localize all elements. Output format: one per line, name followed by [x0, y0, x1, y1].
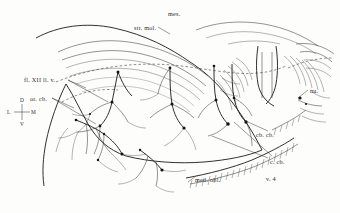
- label-orcb: or. cb.: [30, 96, 47, 102]
- right-edge-detail: [298, 92, 330, 122]
- compass-ventral-label: V: [20, 121, 24, 127]
- label-c-cb: c. cb.: [270, 159, 285, 165]
- label-mes: mes.: [168, 11, 181, 17]
- anatomical-drawing: [0, 0, 340, 213]
- figure-canvas: str. mol. mes. fl. XII ll. v. or. cb. nu…: [0, 0, 340, 213]
- neuron-plexus-right: [198, 64, 252, 146]
- label-fl-xii-llv: fl. XII ll. v.: [24, 77, 55, 83]
- label-v-4: v. 4: [266, 176, 276, 182]
- folial-bands: [56, 41, 286, 112]
- label-str-mol: str. mol.: [134, 25, 156, 31]
- mesencephalon-region: [196, 22, 334, 110]
- primary-contours: [36, 25, 262, 186]
- label-med-obl: med. obl.: [195, 177, 220, 183]
- label-cb-cb: cb. cb.: [256, 132, 274, 138]
- orientation-compass-marks: [14, 104, 30, 120]
- label-nu: nu.: [310, 88, 318, 94]
- compass-medial-label: M: [31, 109, 36, 115]
- compass-lateral-label: L: [7, 109, 10, 115]
- compass-dorsal-label: D: [20, 97, 24, 103]
